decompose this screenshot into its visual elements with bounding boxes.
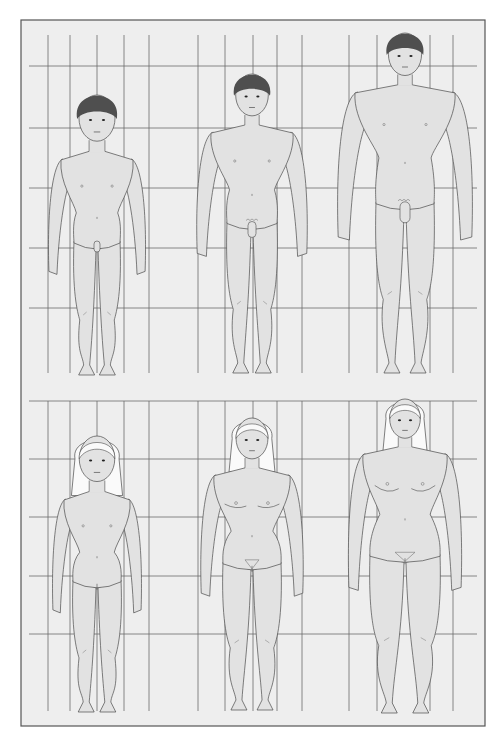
eye — [397, 55, 400, 57]
body-proportions-diagram — [0, 0, 500, 744]
genitals — [248, 221, 256, 237]
eye — [89, 119, 92, 121]
eye — [256, 439, 259, 441]
genitals — [94, 241, 100, 252]
genitals — [400, 202, 410, 223]
eye — [245, 96, 248, 98]
eye — [409, 419, 412, 421]
eye — [398, 419, 401, 421]
eye — [256, 96, 259, 98]
eye — [245, 439, 248, 441]
eye — [409, 55, 412, 57]
eye — [102, 119, 105, 121]
eye — [89, 460, 92, 462]
eye — [102, 460, 105, 462]
diagram-canvas — [0, 0, 500, 744]
